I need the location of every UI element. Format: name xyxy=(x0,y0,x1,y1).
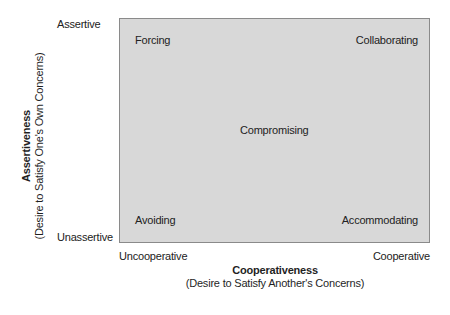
mode-forcing: Forcing xyxy=(135,34,170,46)
mode-accommodating: Accommodating xyxy=(342,214,418,226)
y-axis-low-label: Unassertive xyxy=(57,231,113,243)
conflict-modes-grid: Forcing Collaborating Compromising Avoid… xyxy=(119,18,430,243)
y-axis-high-label: Assertive xyxy=(57,18,100,30)
x-axis-low-label: Uncooperative xyxy=(119,250,187,262)
y-axis-subtitle: (Desire to Satisfy One's Own Concerns) xyxy=(33,52,46,239)
mode-compromising: Compromising xyxy=(240,124,309,136)
x-axis-high-label: Cooperative xyxy=(373,250,430,262)
mode-collaborating: Collaborating xyxy=(356,34,418,46)
x-axis-title-block: Cooperativeness (Desire to Satisfy Anoth… xyxy=(186,264,365,290)
x-axis-subtitle: (Desire to Satisfy Another's Concerns) xyxy=(186,277,365,290)
mode-avoiding: Avoiding xyxy=(135,214,175,226)
y-axis-title-block: Assertiveness (Desire to Satisfy One's O… xyxy=(20,52,46,239)
x-axis-title: Cooperativeness xyxy=(186,264,365,277)
y-axis-title: Assertiveness xyxy=(20,52,33,239)
